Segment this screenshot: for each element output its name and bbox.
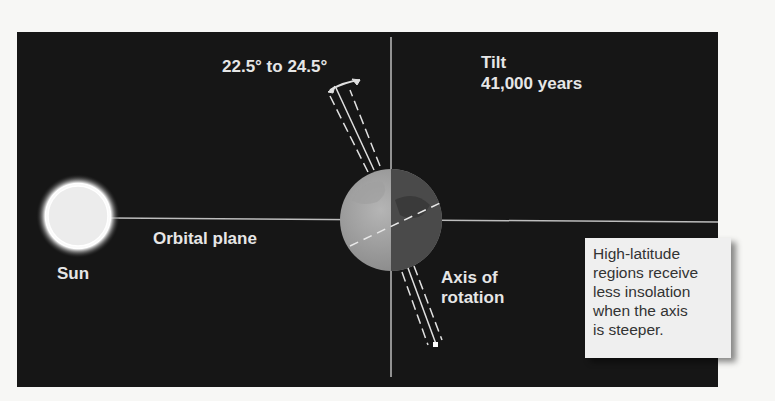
tilt-period-label: 41,000 years — [481, 74, 582, 94]
callout-line: regions receive — [593, 263, 723, 282]
callout-line: is steeper. — [593, 320, 723, 339]
tilt-range-label: 22.5° to 24.5° — [222, 57, 327, 77]
axis-label-line1: Axis of — [441, 268, 498, 288]
sun-label: Sun — [57, 264, 89, 284]
axis-label-line2: rotation — [441, 288, 504, 308]
sun-icon — [36, 174, 120, 258]
callout-line: when the axis — [593, 301, 723, 320]
rotation-axis-top — [328, 79, 380, 172]
tilt-title-label: Tilt — [481, 53, 506, 73]
orbital-plane-label: Orbital plane — [153, 229, 257, 249]
rotation-axis-bottom — [402, 266, 442, 347]
callout-line: less insolation — [593, 282, 723, 301]
insolation-callout: High-latitude regions receive less insol… — [585, 238, 731, 358]
callout-line: High-latitude — [593, 244, 723, 263]
earth-icon — [340, 165, 446, 275]
